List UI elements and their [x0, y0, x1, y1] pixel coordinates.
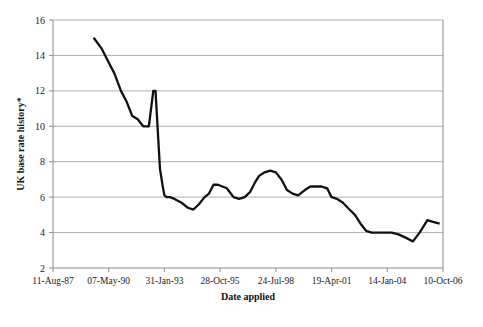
y-tick-labels: 16 14 12 10 8 6 4 2: [35, 15, 45, 274]
xtick-label: 24-Jul-98: [258, 276, 295, 286]
x-tick-marks: [53, 268, 443, 272]
ytick-label: 2: [40, 263, 45, 274]
chart-container: 16 14 12 10 8 6 4 2 11-Aug-87 07-May-90 …: [0, 0, 483, 327]
line-chart: 16 14 12 10 8 6 4 2 11-Aug-87 07-May-90 …: [0, 0, 483, 327]
ytick-label: 10: [35, 121, 45, 132]
ytick-label: 8: [40, 156, 45, 167]
series-line-uk-base-rate: [94, 38, 440, 242]
ytick-label: 16: [35, 15, 45, 26]
xtick-label: 31-Jan-93: [145, 276, 183, 286]
x-axis-title: Date applied: [221, 291, 276, 302]
xtick-label: 28-Oct-95: [201, 276, 240, 286]
xtick-label: 19-Apr-01: [312, 276, 352, 286]
x-tick-labels: 11-Aug-87 07-May-90 31-Jan-93 28-Oct-95 …: [32, 276, 462, 286]
ytick-label: 14: [35, 50, 45, 61]
ytick-label: 12: [35, 85, 45, 96]
ytick-label: 4: [40, 227, 45, 238]
xtick-label: 10-Oct-06: [423, 276, 462, 286]
y-axis-title: UK base rate history*: [15, 97, 26, 191]
xtick-label: 07-May-90: [87, 276, 130, 286]
gridlines: [53, 20, 443, 233]
y-tick-marks: [49, 20, 53, 268]
xtick-label: 14-Jan-04: [368, 276, 406, 286]
ytick-label: 6: [40, 192, 45, 203]
xtick-label: 11-Aug-87: [32, 276, 74, 286]
